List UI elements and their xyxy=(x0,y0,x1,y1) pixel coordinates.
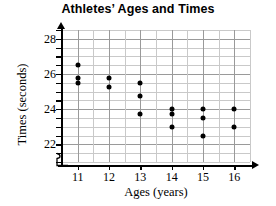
y-axis-tick xyxy=(56,30,62,31)
gridline-vertical xyxy=(93,30,94,162)
data-point xyxy=(107,76,112,81)
gridline-vertical xyxy=(250,30,251,162)
y-axis-tick xyxy=(56,109,62,110)
x-axis-tick-label: 14 xyxy=(160,170,184,185)
plot-area xyxy=(62,30,250,162)
y-axis-tick-label: 22 xyxy=(30,138,56,150)
gridline-vertical xyxy=(203,30,204,162)
data-point xyxy=(138,94,143,99)
data-point xyxy=(138,111,143,116)
y-axis-tick xyxy=(56,118,62,119)
gridline-vertical xyxy=(156,30,157,162)
y-axis-tick-label: 24 xyxy=(30,103,56,115)
scatter-plot-figure: Athletes’ Ages and Times 22242628 111213… xyxy=(0,0,276,206)
y-axis-tick xyxy=(56,56,62,57)
y-axis-tick xyxy=(56,144,62,145)
data-point xyxy=(232,107,237,112)
y-axis-tick xyxy=(56,39,62,40)
data-point xyxy=(169,111,174,116)
y-axis-tick-label: 26 xyxy=(30,68,56,80)
x-axis-arrow-icon xyxy=(252,161,259,169)
data-point xyxy=(201,133,206,138)
gridline-vertical xyxy=(187,30,188,162)
y-axis-tick xyxy=(56,74,62,75)
gridline-vertical xyxy=(109,30,110,162)
y-axis-tick xyxy=(56,100,62,101)
y-axis-tick xyxy=(56,48,62,49)
data-point xyxy=(232,124,237,129)
gridline-horizontal xyxy=(62,162,250,163)
x-axis-tick-label: 12 xyxy=(97,170,121,185)
gridline-vertical xyxy=(78,30,79,162)
y-axis-tick xyxy=(56,92,62,93)
grid-lines xyxy=(62,30,250,162)
x-axis-tick-label: 13 xyxy=(128,170,152,185)
y-axis-title: Times (seconds) xyxy=(15,45,30,165)
data-point xyxy=(75,80,80,85)
x-axis-tick-label: 15 xyxy=(191,170,215,185)
data-point xyxy=(107,85,112,90)
x-axis-line xyxy=(58,165,254,167)
y-axis-tick xyxy=(56,65,62,66)
x-axis-tick-label: 16 xyxy=(222,170,246,185)
y-axis-tick-labels: 22242628 xyxy=(28,0,56,206)
data-point xyxy=(169,124,174,129)
data-point xyxy=(75,63,80,68)
gridline-vertical xyxy=(172,30,173,162)
x-axis-title: Ages (years) xyxy=(62,185,250,200)
data-point xyxy=(201,116,206,121)
gridline-vertical xyxy=(219,30,220,162)
axis-break-icon xyxy=(54,152,70,168)
gridline-vertical xyxy=(125,30,126,162)
data-point xyxy=(138,80,143,85)
y-axis-tick-label: 28 xyxy=(30,33,56,45)
y-axis-tick xyxy=(56,127,62,128)
gridline-vertical xyxy=(234,30,235,162)
x-axis-tick-label: 11 xyxy=(66,170,90,185)
y-axis-tick xyxy=(56,83,62,84)
y-axis-tick xyxy=(56,136,62,137)
data-point xyxy=(201,107,206,112)
